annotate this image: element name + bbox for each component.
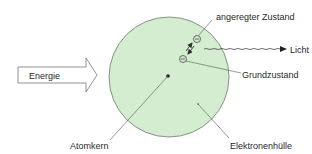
nucleus-label: Atomkern: [70, 141, 109, 151]
excited-state-label: angeregter Zustand: [216, 12, 295, 22]
ground-state-label: Grundzustand: [242, 70, 299, 80]
energy-label: Energie: [29, 71, 60, 81]
excited-electron-icon: [194, 36, 201, 43]
ground-electron-icon: [180, 56, 187, 63]
light-label: Licht: [290, 45, 309, 55]
electron-shell-label: Elektronenhülle: [230, 141, 292, 151]
